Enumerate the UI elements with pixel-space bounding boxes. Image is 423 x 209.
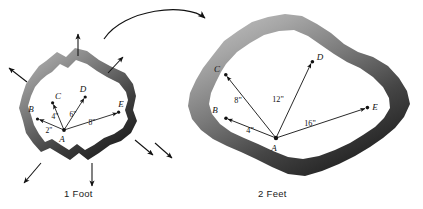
label-length-AB-small: 2": [46, 126, 53, 135]
label-length-AD-large: 12": [272, 95, 284, 104]
expansion-arrow-down-left: [24, 163, 41, 183]
expansion-arrow-down-right: [155, 143, 172, 158]
label-point-C-small: C: [55, 91, 62, 101]
vertex-D-small: [84, 95, 87, 98]
label-point-A-large: A: [270, 143, 277, 153]
vertex-E-small: [117, 111, 120, 114]
vertex-A-small: [62, 128, 66, 132]
vertex-D-large: [311, 60, 315, 64]
vertex-A-large: [274, 136, 278, 140]
label-length-AC-small: 4": [52, 112, 59, 121]
label-length-AB-large: 4": [246, 126, 253, 135]
vertex-B-small: [36, 117, 39, 120]
label-length-AE-small: 8": [89, 118, 96, 127]
label-length-AC-large: 8": [234, 96, 241, 105]
caption-large-region: 2 Feet: [258, 188, 287, 199]
vertex-C-large: [224, 73, 228, 77]
label-length-AE-large: 16": [304, 119, 316, 128]
label-point-B-large: B: [212, 105, 218, 115]
label-point-E-large: E: [371, 102, 378, 112]
vertex-B-large: [224, 116, 228, 120]
label-point-D-large: D: [316, 52, 324, 62]
transform-curved-arrow: [104, 10, 205, 39]
caption-small-region: 1 Foot: [64, 188, 93, 199]
vertex-E-large: [366, 106, 370, 110]
small-region-group: A B C D E 2" 4" 6" 8": [19, 48, 137, 160]
label-length-AD-small: 6": [70, 110, 77, 119]
label-point-E-small: E: [117, 99, 124, 109]
label-point-A-small: A: [58, 134, 65, 144]
scaling-diagram: A B C D E 2" 4" 6" 8": [0, 0, 423, 209]
label-point-C-large: C: [214, 64, 221, 74]
vertex-C-small: [51, 101, 54, 104]
label-point-B-small: B: [28, 104, 34, 114]
large-region-group: A B C D E 4" 8" 12" 16": [188, 14, 410, 176]
expansion-arrow-up-left: [9, 68, 27, 82]
label-point-D-small: D: [79, 84, 87, 94]
expansion-arrow-right: [135, 140, 153, 155]
